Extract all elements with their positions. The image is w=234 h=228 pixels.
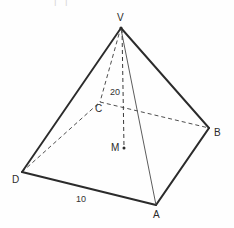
edge-A-B (156, 128, 209, 205)
vertex-label-M: M (111, 143, 119, 153)
pyramid-figure: I I V C B M D A 20 10 (0, 0, 234, 228)
edge-C-B (100, 102, 209, 128)
base-edge-dimension-label: 10 (76, 195, 86, 204)
vertex-label-D: D (12, 175, 19, 185)
vertex-label-B: B (214, 128, 221, 138)
vertex-label-A: A (153, 210, 160, 220)
center-point-marker (123, 147, 126, 150)
height-dimension-label: 20 (110, 88, 120, 97)
apex-point-marker (119, 26, 122, 29)
vertex-label-C: C (95, 104, 102, 114)
edge-V-B (121, 28, 209, 128)
pyramid-drawing (0, 0, 234, 228)
vertex-label-V: V (117, 13, 124, 23)
edge-D-C (22, 102, 100, 172)
edge-D-A (22, 172, 156, 205)
edge-V-A (121, 29, 156, 205)
altitude-V-M (122, 29, 124, 147)
edge-V-D (22, 28, 121, 172)
